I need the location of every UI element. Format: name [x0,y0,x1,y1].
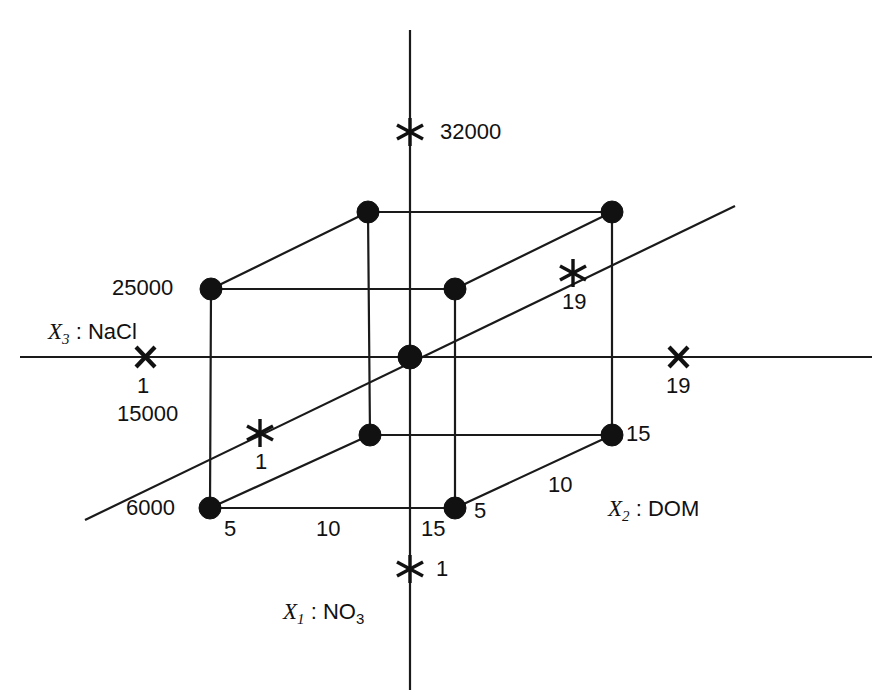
axis-title-x3-nacl: X3 : NaCl [48,320,137,347]
vertex-bottom-back-right [601,424,623,446]
cube-edge-depth-bottom-left [210,435,370,508]
label-tick-x1-5-left: 5 [224,518,236,540]
label-center-value-15000: 15000 [117,403,178,425]
vertex-top-front-right [444,278,466,300]
axis-title-x3-separator: : [70,319,88,344]
vertex-bottom-front-left [199,497,221,519]
vertex-top-back-left [357,201,379,223]
star-marker-x2-high [560,259,586,287]
ccd-cube-plot-figure: 32000 X3 : NaCl 1 19 25000 15000 6000 19… [0,0,892,700]
vertex-bottom-back-left [359,424,381,446]
label-vertex-value-6000: 6000 [126,497,175,519]
axis-title-x1-symbol: X [283,599,297,624]
axis-title-x1-no3: X1 : NO3 [283,600,364,627]
vertex-top-back-right [601,201,623,223]
label-tick-x1-15: 15 [421,518,445,540]
label-cross-value-low-1: 1 [137,375,149,397]
label-star-value-32000: 32000 [440,121,501,143]
star-marker-x1-high [397,118,423,146]
label-tick-x2-5: 5 [474,500,486,522]
label-tick-x2-15: 15 [626,423,650,445]
axis-title-x1-name: NO [323,599,356,624]
vertex-bottom-front-right [444,497,466,519]
axis-title-x2-subscript: 2 [622,508,630,524]
label-star-value-19: 19 [562,291,586,313]
cube-edge-depth-top-left [211,212,368,289]
axis-title-x2-dom: X2 : DOM [608,497,699,524]
axis-title-x3-symbol: X [48,319,62,344]
axis-title-x1-name-subscript: 3 [356,610,364,627]
label-tick-x2-10: 10 [548,474,572,496]
axis-title-x2-separator: : [630,496,648,521]
label-vertex-value-25000: 25000 [112,277,173,299]
vertex-center-point [398,345,422,369]
axis-title-x3-subscript: 3 [62,331,70,347]
label-star-value-1-left: 1 [255,451,267,473]
axis-title-x3-name: NaCl [88,319,137,344]
cube-edge-back-left-vertical [368,212,370,435]
star-marker-x1-low [397,555,423,583]
diagram-canvas [0,0,892,700]
label-tick-x1-10: 10 [316,518,340,540]
axis-title-x2-symbol: X [608,496,622,521]
vertex-top-front-left [200,278,222,300]
label-cross-value-high-19: 19 [666,375,690,397]
axis-title-x2-name: DOM [648,496,699,521]
label-star-value-1-bottom: 1 [436,558,448,580]
cube-edge-front-left-vertical [210,289,211,508]
axis-title-x1-separator: : [305,599,323,624]
star-marker-x2-low [247,419,273,447]
axis-title-x1-subscript: 1 [297,611,305,627]
